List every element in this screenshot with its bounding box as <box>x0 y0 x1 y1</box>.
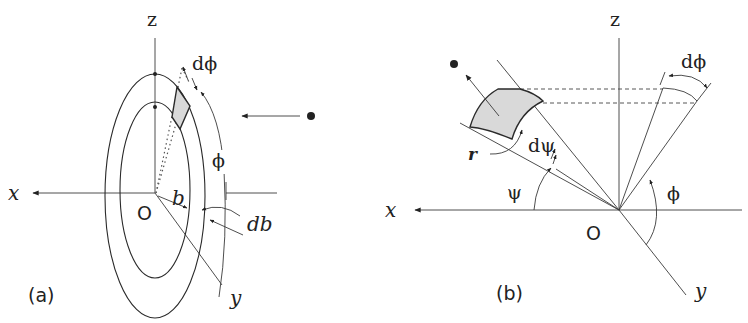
d-phi-label: dϕ <box>681 50 706 72</box>
z-axis-label: z <box>147 8 157 30</box>
b-label: b <box>172 186 185 210</box>
db-label: db <box>247 212 273 236</box>
area-element-patch <box>172 87 190 129</box>
incident-particle <box>307 112 315 120</box>
psi-label: ψ <box>507 181 522 203</box>
panel-a-caption: (a) <box>28 284 54 306</box>
scattering-diagram: z x y O dϕ ϕ b <box>0 0 748 323</box>
x-axis-label: x <box>8 181 19 205</box>
area-element-patch <box>470 89 543 139</box>
d-phi-arc <box>669 75 707 88</box>
origin-label: O <box>137 202 152 224</box>
d-psi-label: dψ <box>528 134 555 156</box>
z-axis-label: z <box>610 8 620 30</box>
y-axis-label: y <box>694 279 707 303</box>
x-axis-label: x <box>385 198 396 222</box>
origin-label: O <box>586 222 601 244</box>
phi-label: ϕ <box>667 182 680 204</box>
panel-b: z x y O r dψ ψ <box>385 8 742 304</box>
scattered-particle <box>450 60 458 68</box>
phi-label: ϕ <box>212 149 225 171</box>
y-axis-label: y <box>229 286 242 310</box>
y-axis <box>155 193 222 285</box>
d-phi-label: dϕ <box>192 52 217 74</box>
psi-arc <box>534 168 551 210</box>
panel-a: z x y O dϕ ϕ b <box>8 8 315 318</box>
y-axis <box>619 210 686 295</box>
radial-dotted-line <box>156 68 182 193</box>
r-label: r <box>468 144 478 164</box>
panel-b-caption: (b) <box>496 282 523 304</box>
phi-arc <box>646 180 657 245</box>
